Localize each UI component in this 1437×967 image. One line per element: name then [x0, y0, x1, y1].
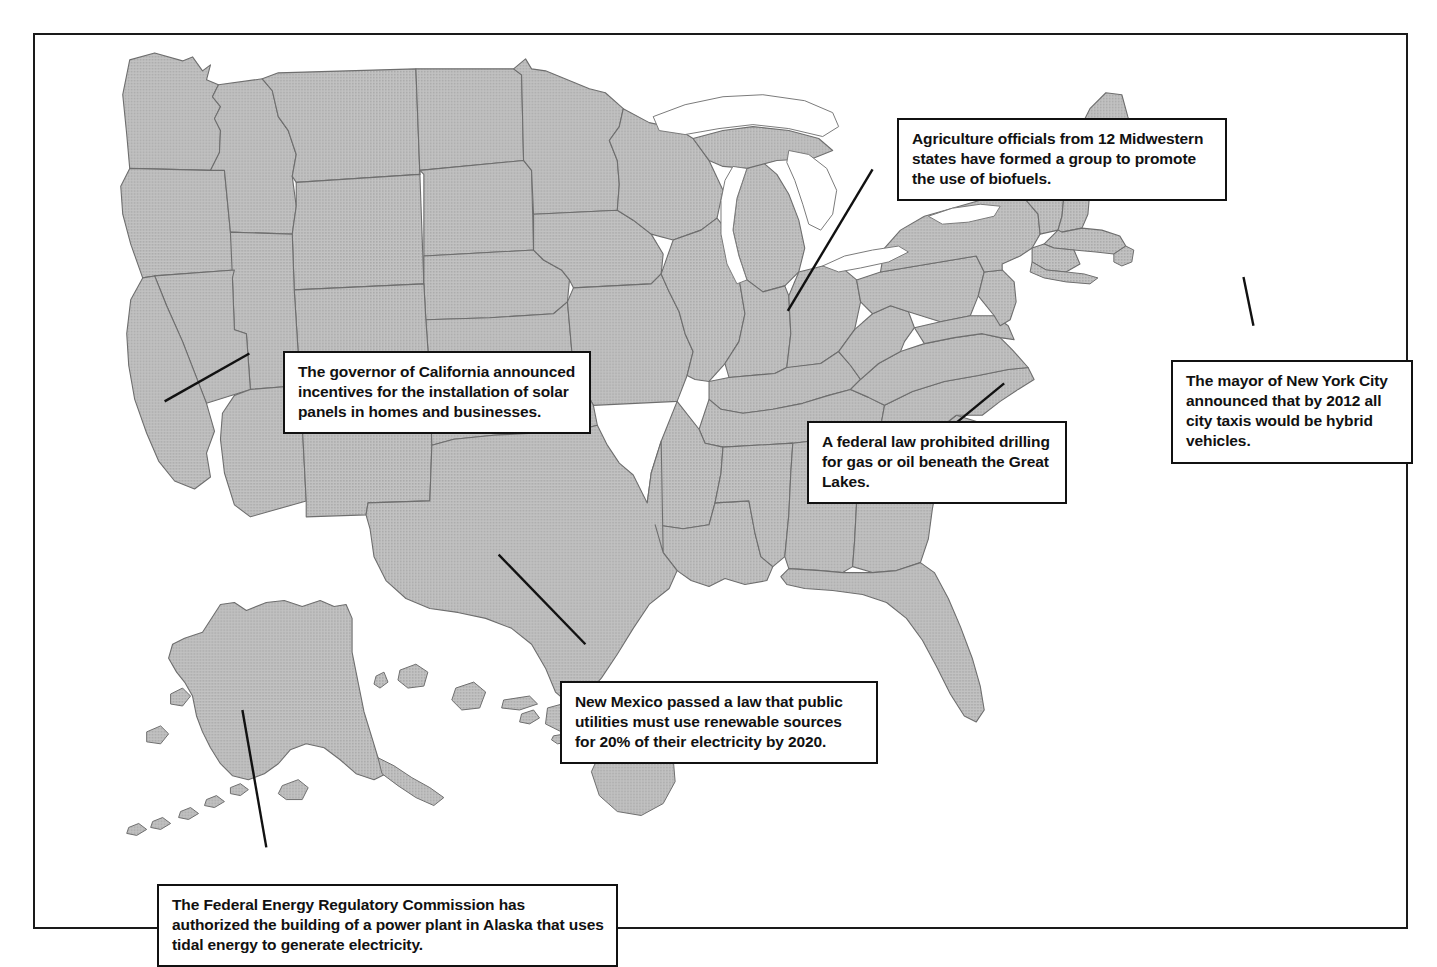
- callout-newmexico[interactable]: New Mexico passed a law that public util…: [560, 681, 878, 764]
- aleutian-islands-3: [179, 808, 199, 820]
- state-alaska: [169, 600, 386, 779]
- state-wyoming: [292, 174, 424, 289]
- callout-california-text: The governor of California announced inc…: [298, 362, 578, 422]
- callout-greatlakes[interactable]: A federal law prohibited drilling for ga…: [807, 421, 1067, 504]
- kodiak-island: [278, 780, 308, 800]
- leader-line-nyc: [1243, 277, 1253, 326]
- state-north-dakota: [416, 69, 524, 175]
- hawaii-molokai: [502, 696, 538, 710]
- hawaii-kauai: [398, 664, 428, 688]
- callout-nyc-text: The mayor of New York City announced tha…: [1186, 371, 1400, 452]
- callout-nyc[interactable]: The mayor of New York City announced tha…: [1171, 360, 1413, 464]
- hawaii-oahu: [452, 682, 486, 710]
- callout-california[interactable]: The governor of California announced inc…: [283, 351, 591, 434]
- state-pennsylvania: [857, 256, 985, 322]
- aleutian-islands-2: [205, 796, 225, 808]
- callout-biofuels[interactable]: Agriculture officials from 12 Midwestern…: [897, 118, 1227, 201]
- state-washington: [123, 53, 221, 170]
- state-oregon: [121, 168, 235, 278]
- bering-island-1: [147, 726, 169, 744]
- callout-newmexico-text: New Mexico passed a law that public util…: [575, 692, 865, 752]
- aleutian-islands: [230, 784, 248, 796]
- callout-alaska[interactable]: The Federal Energy Regulatory Commission…: [157, 884, 618, 967]
- aleutian-islands-5: [127, 823, 147, 835]
- aleutian-islands-4: [151, 817, 171, 829]
- callout-greatlakes-text: A federal law prohibited drilling for ga…: [822, 432, 1054, 492]
- hawaii-lanai: [520, 710, 540, 724]
- callout-alaska-text: The Federal Energy Regulatory Commission…: [172, 895, 605, 955]
- figure-frame: Agriculture officials from 12 Midwestern…: [33, 33, 1408, 929]
- alaska-inset-group: [127, 600, 444, 835]
- hawaii-niihau: [374, 672, 388, 688]
- alaska-panhandle: [378, 758, 444, 806]
- callout-biofuels-text: Agriculture officials from 12 Midwestern…: [912, 129, 1214, 189]
- bering-island-2: [171, 688, 191, 706]
